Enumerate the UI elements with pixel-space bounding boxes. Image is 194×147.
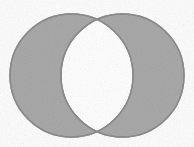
venn-diagram-canvas xyxy=(0,0,194,147)
venn-diagram-svg xyxy=(0,0,194,147)
